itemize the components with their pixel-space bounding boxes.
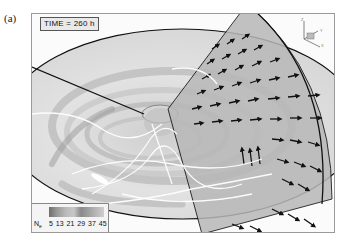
colorbar-legend: Ne 5 13 21 29 37 45	[32, 203, 109, 232]
colorbar-ticks: 5 13 21 29 37 45	[49, 220, 107, 227]
z-axis-label: Z	[301, 17, 303, 22]
time-label: TIME = 260 h	[40, 17, 99, 31]
axes-triad: Z Y X	[298, 17, 328, 49]
colorbar-variable: Ne	[34, 220, 42, 229]
figure-panel-label: (a)	[4, 12, 16, 24]
colorbar-gradient	[49, 207, 104, 217]
simulation-plot-frame: TIME = 260 h Z Y X Ne 5 13 21 29 37 45	[31, 13, 335, 233]
disk-visualization	[32, 14, 335, 233]
y-axis-label: Y	[320, 28, 323, 33]
x-axis-label: X	[321, 43, 324, 48]
